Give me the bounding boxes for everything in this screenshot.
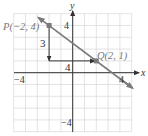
y-axis-label: y <box>69 0 75 11</box>
rise-label: 3 <box>40 37 46 49</box>
x-tick-4: 4 <box>119 74 124 85</box>
point-p-marker <box>47 23 52 28</box>
y-tick-4: 4 <box>64 20 69 31</box>
y-tick-neg4: −4 <box>61 117 72 128</box>
coordinate-plane: y x 4 −4 −4 4 3 4 P(−2, 4) Q(2, 1) <box>0 0 148 136</box>
x-axis-label: x <box>140 67 146 78</box>
point-p-label: P(−2, 4) <box>2 21 40 33</box>
coordinate-plane-figure: y x 4 −4 −4 4 3 4 P(−2, 4) Q(2, 1) <box>0 0 148 136</box>
x-tick-neg4: −4 <box>14 74 25 85</box>
run-label: 4 <box>65 61 71 73</box>
point-q-label: Q(2, 1) <box>97 50 128 62</box>
